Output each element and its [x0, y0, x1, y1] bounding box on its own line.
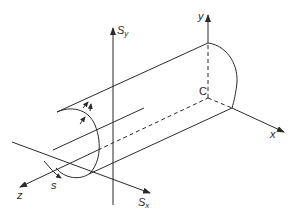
z-axis [20, 150, 98, 187]
s-direction-arrow [44, 161, 61, 178]
x-axis [232, 108, 284, 132]
hidden-centroid-axis [98, 98, 208, 150]
section-line [53, 108, 144, 150]
hidden-radius-line [208, 98, 232, 108]
thickness-arrow-tick [90, 104, 91, 111]
centroid-label: C [199, 86, 207, 97]
cylinder-shear-diagram [0, 0, 290, 218]
top-generator [57, 43, 208, 112]
bottom-generator [89, 108, 232, 174]
thickness-arrow-inner [80, 117, 85, 124]
shear-y-sub: y [124, 29, 128, 38]
far-end-arc [208, 43, 237, 108]
shear-x-label: Sx [138, 197, 149, 210]
thickness-arrow-outer [83, 102, 88, 108]
s-label: s [51, 180, 57, 191]
z-axis-label: z [17, 190, 23, 201]
y-axis-label: y [198, 11, 204, 22]
shear-x-line [12, 142, 150, 193]
shear-x-sub: x [145, 201, 149, 210]
shear-y-label: Sy [117, 25, 128, 38]
x-axis-label: x [270, 129, 276, 140]
